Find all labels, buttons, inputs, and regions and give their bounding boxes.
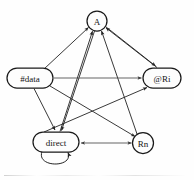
- node-rn[interactable]: Rn: [133, 133, 154, 154]
- edge-a-to-direct: [62, 31, 95, 131]
- edge-a-to-ri: [106, 27, 156, 67]
- edge-data-to-direct: [34, 89, 55, 131]
- node-data[interactable]: #data: [7, 68, 53, 88]
- node-direct-label: direct: [46, 138, 67, 148]
- edge-direct-to-a: [60, 31, 93, 131]
- node-a[interactable]: A: [87, 11, 107, 31]
- node-rn-label: Rn: [138, 139, 149, 149]
- edge-direct-self-loop: [41, 152, 68, 165]
- node-a-label: A: [94, 17, 101, 27]
- graph-canvas: A #data @Ri direct Rn: [0, 0, 194, 180]
- edge-rn-to-a: [102, 31, 138, 134]
- node-data-label: #data: [20, 74, 40, 84]
- node-ri-label: @Ri: [154, 74, 171, 84]
- scan-artifact-line: [4, 175, 186, 176]
- node-direct[interactable]: direct: [33, 132, 79, 152]
- graph-diagram: A #data @Ri direct Rn: [0, 0, 194, 180]
- edge-direct-to-ri: [44, 88, 147, 133]
- node-ri[interactable]: @Ri: [143, 68, 181, 88]
